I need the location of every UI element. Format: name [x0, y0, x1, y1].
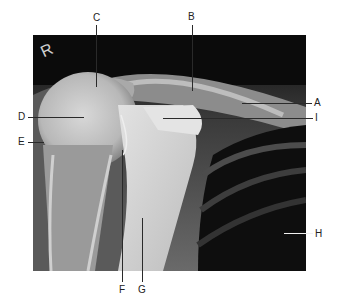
label-e: E [18, 137, 25, 147]
label-g: G [138, 285, 146, 295]
label-b: B [188, 12, 195, 22]
label-d: D [18, 112, 25, 122]
xray-image: R [33, 35, 306, 271]
label-c: C [93, 13, 100, 23]
leader-a [242, 103, 312, 104]
label-i: I [315, 113, 318, 123]
leader-b [192, 25, 193, 91]
leader-g [142, 218, 143, 282]
leader-d [28, 117, 84, 118]
leader-h [284, 233, 313, 234]
label-a: A [314, 98, 321, 108]
label-f: F [119, 285, 125, 295]
leader-i [163, 118, 313, 119]
leader-e [28, 142, 44, 143]
leader-c [96, 25, 97, 87]
label-h: H [315, 229, 322, 239]
leader-f [122, 150, 123, 282]
